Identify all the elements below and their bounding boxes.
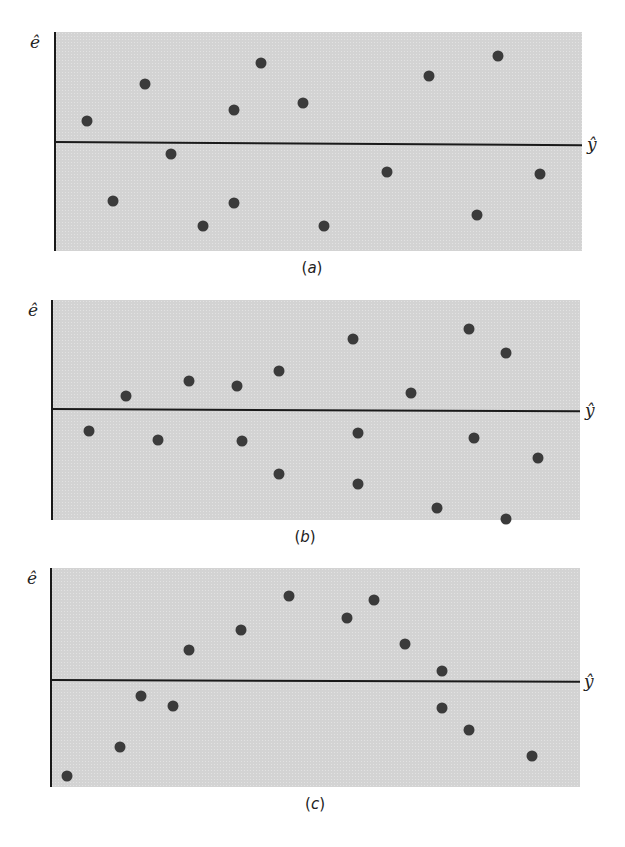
data-point: [463, 725, 474, 736]
data-point: [342, 613, 353, 624]
data-point: [437, 666, 448, 677]
data-point: [400, 639, 411, 650]
data-point: [437, 702, 448, 713]
y-axis-c: [50, 568, 52, 787]
caption-c: (c): [305, 795, 325, 813]
data-point: [236, 624, 247, 635]
plot-area-c: [51, 568, 580, 787]
data-point: [368, 595, 379, 606]
data-point: [284, 591, 295, 602]
y-axis-label-c: ê: [27, 570, 37, 587]
data-point: [114, 742, 125, 753]
data-point: [527, 750, 538, 761]
data-point: [135, 691, 146, 702]
data-point: [61, 771, 72, 782]
panel-c: ê ŷ (c): [0, 0, 625, 820]
data-point: [183, 644, 194, 655]
data-point: [167, 700, 178, 711]
x-axis-label-c: ŷ: [584, 673, 594, 690]
